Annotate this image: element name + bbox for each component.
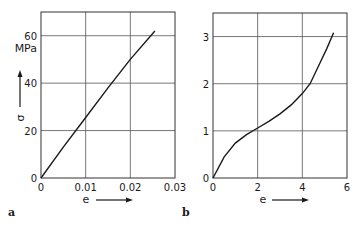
x-arrow-head-icon-b	[302, 198, 309, 203]
y-tick-label: 60	[24, 31, 37, 42]
y-tick-label: 0	[203, 173, 209, 184]
x-tick-label: 0.03	[164, 182, 186, 193]
y-tick-label: 3	[203, 32, 209, 43]
x-tick-label: 2	[254, 182, 260, 193]
tick-labels-b: 02460123	[203, 32, 351, 193]
y-unit-label: MPa	[15, 42, 37, 55]
x-arrow-head-icon-a	[126, 198, 133, 203]
y-tick-label: 1	[203, 126, 209, 137]
panel-label-b: b	[182, 206, 190, 219]
y-tick-label: 40	[24, 78, 37, 89]
x-tick-label: 0	[38, 182, 44, 193]
panel-label-a: a	[8, 206, 15, 219]
grid-b	[213, 13, 347, 178]
figure: 00.010.020.030204060 MPa σ e a 02460123 …	[0, 0, 364, 227]
chart-b: 02460123 e b	[182, 13, 350, 219]
y-arrow-head-icon	[18, 70, 23, 77]
plot-frame-a	[41, 12, 175, 178]
y-tick-label: 0	[31, 173, 37, 184]
x-axis-label-a: e	[83, 193, 90, 206]
data-line-a	[41, 31, 155, 178]
plot-frame-b	[213, 13, 347, 178]
y-tick-label: 20	[24, 126, 37, 137]
x-tick-label: 4	[299, 182, 305, 193]
chart-a: 00.010.020.030204060 MPa σ e a	[8, 12, 186, 219]
x-tick-label: 0.02	[119, 182, 141, 193]
y-axis-label-a: σ	[14, 114, 27, 121]
x-axis-label-b: e	[260, 193, 267, 206]
y-tick-label: 2	[203, 79, 209, 90]
data-line-b	[213, 33, 334, 178]
grid-a	[41, 12, 175, 178]
x-tick-label: 6	[344, 182, 350, 193]
x-tick-label: 0	[210, 182, 216, 193]
x-tick-label: 0.01	[75, 182, 97, 193]
